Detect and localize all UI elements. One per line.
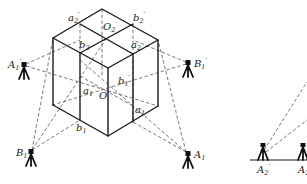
label-O2: O2 (103, 21, 115, 34)
label-A1-prime: A1′ (7, 58, 21, 72)
label-b1-prime: b1′ (118, 74, 131, 88)
tripod-icon (183, 60, 193, 77)
label-O: O (99, 90, 107, 101)
label-A1: A1 (193, 149, 205, 162)
label-A2-prime: A2′ (256, 163, 270, 177)
tripod-icon (298, 143, 307, 160)
label-b2-prime: b2′ (133, 11, 146, 25)
label-B1: B1 (15, 147, 28, 160)
survey-diagram: a2′ b2′ O2 b2 a2 b1′ a1′ O b1 a1 A1′ B1′… (0, 0, 307, 184)
sight-lines (26, 36, 307, 152)
label-a1: a1 (135, 104, 145, 117)
label-a2: a2 (131, 39, 141, 52)
label-a1-prime: a1′ (83, 84, 95, 98)
tripod-icon (26, 149, 36, 166)
label-b1: b1 (76, 122, 87, 135)
tripod-icon (183, 151, 193, 168)
label-A2: A2 (297, 164, 307, 177)
label-B1-prime: B1′ (193, 57, 208, 71)
